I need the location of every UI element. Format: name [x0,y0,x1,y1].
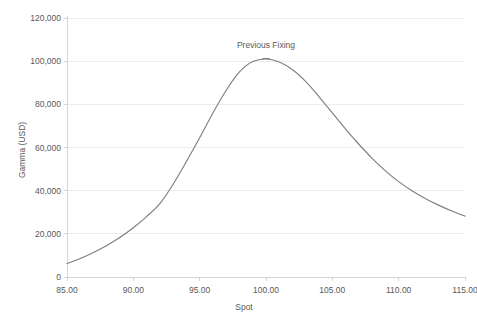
y-tick-label: 60,000 [35,143,61,153]
x-tick-label: 100.00 [253,285,279,295]
y-tick-label: 100,000 [30,56,61,66]
y-tick-label: 40,000 [35,186,61,196]
data-series [67,59,465,264]
line-chart: 020,00040,00060,00080,000100,000120,000 … [0,0,477,323]
x-tick-label: 90.00 [123,285,145,295]
y-axis-title: Gamma (USD) [17,122,27,178]
y-tick-label: 80,000 [35,99,61,109]
y-tick-label: 120,000 [30,13,61,23]
series-line-gamma [67,59,465,264]
x-tick-label: 85.00 [56,285,78,295]
x-tick-label: 105.00 [319,285,345,295]
x-axis-title: Spot [235,302,253,312]
annotation-label: Previous Fixing [237,40,295,50]
x-tick-label: 115.00 [452,285,477,295]
y-tick-labels: 020,00040,00060,00080,000100,000120,000 [30,13,61,282]
x-tick-label: 95.00 [189,285,211,295]
chart-container: 020,00040,00060,00080,000100,000120,000 … [0,0,477,323]
annotations-layer: Previous Fixing [237,40,295,59]
gridlines [67,18,465,277]
x-tick-label: 110.00 [386,285,412,295]
x-tick-labels: 85.0090.0095.00100.00105.00110.00115.00 [56,285,477,295]
y-tick-label: 20,000 [35,229,61,239]
y-tick-label: 0 [56,272,61,282]
axes [64,16,466,281]
